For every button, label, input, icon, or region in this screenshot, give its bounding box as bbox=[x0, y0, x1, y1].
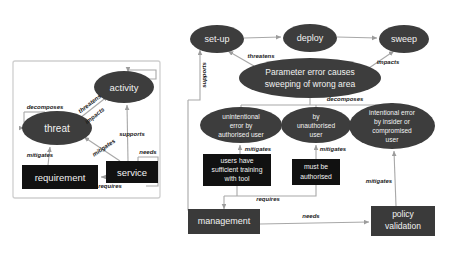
node-unauthorised-user[interactable]: by unauthorised user bbox=[281, 107, 351, 143]
unauthorised-user-label-line2: unauthorised bbox=[297, 122, 335, 129]
unintentional-error-label-line1: unintentional bbox=[222, 113, 260, 120]
parameter-error-label-line1: Parameter error causes bbox=[265, 67, 354, 77]
node-unintentional-error[interactable]: unintentional error by authorised user bbox=[200, 107, 282, 143]
edge-label-needs: needs bbox=[139, 149, 157, 155]
intentional-error-label-line2: by insider or bbox=[374, 118, 411, 126]
set-up-label: set-up bbox=[204, 34, 229, 44]
node-training-requirement[interactable]: users have sufficient training with tool bbox=[203, 154, 271, 186]
service-label: service bbox=[117, 167, 147, 178]
edge-label-mitigates-service: mitigates bbox=[91, 137, 117, 157]
edge-label-mitigates-mustauth: mitigates bbox=[320, 146, 347, 152]
edge-label-supports-right: supports bbox=[201, 62, 207, 88]
node-requirement[interactable]: requirement bbox=[22, 165, 98, 189]
edge-label-mitigates-policy: mitigates bbox=[366, 178, 393, 184]
requirement-label: requirement bbox=[35, 172, 86, 183]
node-sweep[interactable]: sweep bbox=[379, 25, 429, 53]
edge-management-setup-v2 bbox=[188, 56, 200, 100]
edge-label-decomposes: decomposes bbox=[27, 104, 64, 110]
diagram-svg: threat activity requirement service deco… bbox=[0, 0, 451, 260]
intentional-error-label-line4: user bbox=[386, 136, 400, 143]
edge-label-decomposes-right: decomposes bbox=[327, 96, 364, 102]
parameter-error-ellipse[interactable] bbox=[239, 58, 381, 98]
sweep-label: sweep bbox=[391, 34, 417, 44]
training-requirement-label-line1: users have bbox=[220, 157, 253, 164]
node-activity[interactable]: activity bbox=[94, 71, 154, 103]
unintentional-error-label-line2: error by bbox=[230, 122, 253, 130]
edge-label-threatens-right: threatens bbox=[247, 53, 275, 59]
must-be-authorised-label-line2: authorised bbox=[300, 173, 332, 180]
node-service[interactable]: service bbox=[106, 161, 158, 183]
edge-label-mitigates-training: mitigates bbox=[245, 146, 272, 152]
node-deploy[interactable]: deploy bbox=[283, 24, 337, 52]
edge-requires-bus bbox=[224, 185, 316, 196]
parameter-error-label-line2: sweeping of wrong area bbox=[265, 79, 356, 89]
must-be-authorised-label-line1: must be bbox=[304, 163, 328, 170]
threat-label: threat bbox=[44, 123, 70, 134]
edge-label-needs-right: needs bbox=[302, 213, 320, 219]
node-policy-validation[interactable]: policy validation bbox=[371, 206, 435, 236]
edge-label-requires: requires bbox=[98, 183, 122, 189]
edge-label-impacts-right: impacts bbox=[377, 59, 400, 65]
intentional-error-label-line1: intentional error bbox=[369, 109, 416, 116]
node-set-up[interactable]: set-up bbox=[190, 25, 244, 53]
training-requirement-label-line2: sufficient training bbox=[212, 166, 263, 174]
unintentional-error-label-line3: authorised user bbox=[218, 131, 264, 138]
edge-deploy-sweep bbox=[337, 37, 377, 38]
unauthorised-user-label-line3: user bbox=[310, 131, 324, 138]
policy-validation-label-line1: policy bbox=[392, 209, 414, 219]
edge-label-requires-right: requires bbox=[256, 196, 280, 202]
edge-policy-intentional bbox=[394, 151, 396, 206]
edge-label-supports: supports bbox=[119, 131, 145, 137]
edge-setup-deploy bbox=[244, 37, 281, 38]
edge-management-policy bbox=[260, 222, 369, 224]
unauthorised-user-label-line1: by bbox=[313, 113, 321, 121]
deploy-label: deploy bbox=[297, 33, 324, 43]
node-threat[interactable]: threat bbox=[22, 111, 92, 145]
node-must-be-authorised[interactable]: must be authorised bbox=[292, 159, 340, 185]
management-label: management bbox=[198, 216, 251, 226]
diagram-canvas: threat activity requirement service deco… bbox=[0, 0, 451, 260]
edge-label-mitigates-requirement: mitigates bbox=[27, 152, 54, 158]
intentional-error-label-line3: compromised bbox=[372, 127, 412, 135]
edge-management-setup-v1 bbox=[188, 100, 196, 210]
policy-validation-label-line2: validation bbox=[385, 221, 421, 231]
node-intentional-error[interactable]: intentional error by insider or compromi… bbox=[349, 103, 435, 149]
training-requirement-label-line3: with tool bbox=[224, 175, 250, 182]
activity-label: activity bbox=[109, 82, 138, 93]
node-parameter-error[interactable]: Parameter error causes sweeping of wrong… bbox=[239, 58, 381, 98]
node-management[interactable]: management bbox=[188, 209, 260, 234]
